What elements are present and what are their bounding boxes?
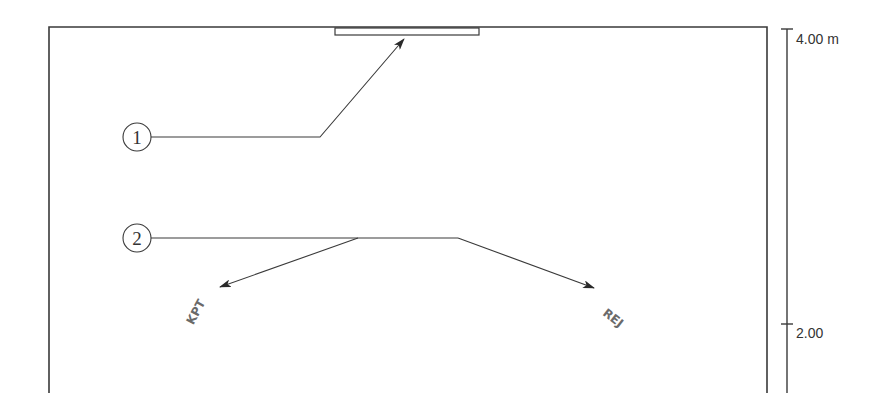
callout-1: 1 — [123, 39, 404, 151]
dimension-label-top: 4.00 m — [796, 31, 839, 47]
callout-2-number: 2 — [132, 228, 142, 249]
callout-2: 2 — [123, 224, 594, 288]
callout-2-arrow-left — [220, 238, 358, 287]
callout-1-leader — [151, 39, 404, 137]
height-dimension: 4.00 m 2.00 — [781, 29, 839, 393]
callout-1-number: 1 — [132, 127, 142, 148]
left-unit-symbol-text: KPT — [184, 296, 209, 326]
dimension-label-mid: 2.00 — [796, 325, 823, 341]
room-outline — [49, 27, 767, 393]
right-unit-symbol-icon: REJ — [600, 306, 626, 331]
ceiling-fixture — [335, 28, 479, 35]
room-diagram: 1 2 KPT REJ 4.00 m 2.00 — [0, 0, 887, 418]
left-unit-symbol-icon: KPT — [184, 296, 209, 326]
callout-2-arrow-right — [458, 238, 594, 288]
right-unit-symbol-text: REJ — [600, 306, 626, 331]
